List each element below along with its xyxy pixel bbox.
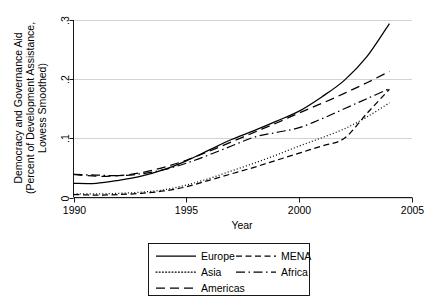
y-tick-label-0: 0 <box>59 195 71 201</box>
y-axis-title-line1: Democracy and Governance Aid <box>12 32 24 183</box>
x-tick-label-2: 2000 <box>288 204 312 216</box>
chart-svg: 0.1.2.3 1990199520002005 Democracy and G… <box>0 0 425 307</box>
x-axis-title: Year <box>231 219 253 231</box>
y-tick-label-1: .1 <box>59 134 71 143</box>
legend-label-asia[interactable]: Asia <box>201 266 222 278</box>
y-tick-label-3: .3 <box>59 16 71 25</box>
x-tick-label-0: 1990 <box>63 204 87 216</box>
x-tick-label-1: 1995 <box>175 204 199 216</box>
y-tick-label-2: .2 <box>59 75 71 84</box>
legend: EuropeAsiaAmericasMENAAfrica <box>149 244 312 296</box>
chart-container: 0.1.2.3 1990199520002005 Democracy and G… <box>0 0 425 307</box>
legend-label-africa[interactable]: Africa <box>281 266 308 278</box>
y-axis-title-line2: (Percent of Development Assistance, <box>24 22 36 194</box>
legend-label-europe[interactable]: Europe <box>201 250 235 262</box>
y-axis-title-line3: Lowess Smoothed) <box>36 63 48 153</box>
legend-label-americas[interactable]: Americas <box>201 282 245 294</box>
legend-label-mena[interactable]: MENA <box>281 250 311 262</box>
x-tick-label-3: 2005 <box>401 204 425 216</box>
